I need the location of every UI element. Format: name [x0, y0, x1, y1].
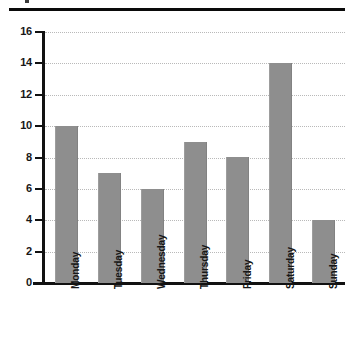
y-tick-mark-14: [35, 62, 43, 64]
bar-chart-figure: 0246810121416 MondayTuesdayWednesdayThur…: [0, 0, 353, 360]
y-tick-label: 6: [4, 183, 32, 194]
y-tick-label-wrap-0: 0: [0, 277, 32, 288]
y-tick-label: 16: [4, 26, 32, 37]
x-tick-label: Wednesday: [157, 235, 167, 290]
y-tick-mark-6: [35, 188, 43, 190]
y-tick-label-wrap-8: 8: [0, 152, 32, 163]
x-tick-label: Thursday: [200, 245, 210, 289]
y-tick-label-wrap-6: 6: [0, 183, 32, 194]
y-tick-label: 14: [4, 57, 32, 68]
y-tick-label: 8: [4, 152, 32, 163]
x-tick-label: Monday: [71, 252, 81, 289]
y-tick-label-wrap-14: 14: [0, 57, 32, 68]
x-tick-label: Saturday: [286, 247, 296, 289]
y-tick-label: 10: [4, 120, 32, 131]
y-tick-mark-10: [35, 125, 43, 127]
x-tick-label: Friday: [243, 260, 253, 289]
y-tick-label-wrap-16: 16: [0, 26, 32, 37]
plot-area: [45, 32, 345, 283]
y-tick-mark-16: [35, 31, 43, 33]
y-tick-label: 4: [4, 214, 32, 225]
y-tick-mark-8: [35, 157, 43, 159]
y-tick-mark-4: [35, 219, 43, 221]
y-tick-label-wrap-10: 10: [0, 120, 32, 131]
y-tick-mark-2: [35, 251, 43, 253]
x-tick-label: Tuesday: [114, 250, 124, 289]
y-tick-label: 2: [4, 246, 32, 257]
y-tick-label: 12: [4, 89, 32, 100]
y-tick-label: 0: [4, 277, 32, 288]
y-tick-label-wrap-12: 12: [0, 89, 32, 100]
y-tick-mark-12: [35, 94, 43, 96]
y-tick-label-wrap-4: 4: [0, 214, 32, 225]
y-tick-label-wrap-2: 2: [0, 246, 32, 257]
y-tick-mark-0: [35, 282, 43, 284]
x-tick-label: Sunday: [329, 253, 339, 289]
